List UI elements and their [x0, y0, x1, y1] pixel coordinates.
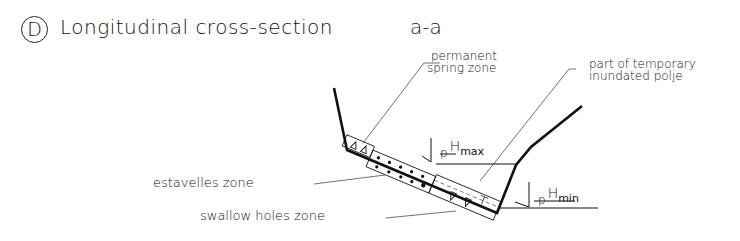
hmin-marker-arrow	[515, 202, 529, 207]
hmax-prefix: p	[440, 146, 448, 160]
hmax-label: pHmax	[440, 142, 484, 161]
spring-zone-label-line2: spring zone	[427, 62, 496, 74]
hmin-subscript: min	[558, 192, 579, 205]
hmax-subscript: max	[460, 145, 484, 158]
estavelles-leader	[314, 175, 385, 184]
spring-zone-leader	[363, 63, 440, 143]
swallow-holes-zone-box	[429, 175, 501, 221]
hmin-symbol: H	[548, 185, 559, 201]
hmin-label: pHmin	[538, 189, 579, 208]
estavelles-zone-label: estavelles zone	[153, 177, 254, 189]
hmax-marker-arrow	[422, 156, 431, 162]
hmax-symbol: H	[450, 138, 461, 154]
hmin-prefix: p	[538, 193, 546, 207]
swallow-holes-zone-label: swallow holes zone	[200, 210, 325, 222]
polje-label-line2: inundated polje	[589, 70, 683, 82]
cross-section-drawing	[0, 0, 740, 241]
swallow-holes-leader	[386, 211, 456, 218]
